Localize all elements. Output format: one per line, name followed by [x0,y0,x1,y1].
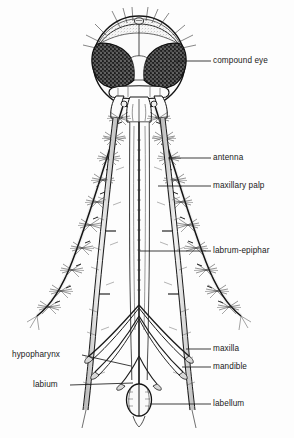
label-labrum-epiphar: labrum-epiphar [213,246,269,256]
head-capsule [83,7,196,108]
label-maxilla: maxilla [213,344,239,354]
mosquito-head-diagram: compound eye antenna maxillary palp labr… [0,0,294,438]
label-compound-eye: compound eye [213,56,268,66]
label-maxillary-palp: maxillary palp [213,181,264,191]
label-labium: labium [33,380,58,390]
label-antenna: antenna [213,153,243,163]
leader-labium [70,383,133,385]
label-mandible: mandible [213,362,247,372]
label-labellum: labellum [213,399,244,409]
labellum [127,384,152,427]
label-hypopharynx: hypopharynx [12,350,60,360]
proboscis-fascicle [130,122,150,386]
